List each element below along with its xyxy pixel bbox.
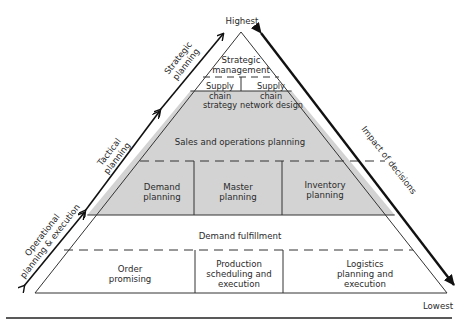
highest-label: Highest — [222, 16, 262, 26]
logistics-planning-label: Logistics planning and execution — [320, 259, 410, 289]
inventory-planning-label: Inventory planning — [293, 180, 357, 200]
lowest-label: Lowest — [418, 301, 458, 311]
supply-chain-strategy-label: Supply chain strategy — [199, 82, 241, 111]
demand-planning-label: Demand planning — [130, 182, 194, 202]
order-promising-label: Order promising — [90, 264, 170, 284]
sales-and-operations-planning-label: Sales and operations planning — [160, 137, 320, 147]
production-scheduling-label: Production scheduling and execution — [195, 259, 283, 289]
strategic-management-label: Strategic management — [201, 55, 281, 75]
supply-chain-network-design-label: Supply chain network design — [240, 82, 302, 111]
demand-fulfillment-label: Demand fulfillment — [180, 231, 300, 241]
master-planning-label: Master planning — [206, 182, 270, 202]
